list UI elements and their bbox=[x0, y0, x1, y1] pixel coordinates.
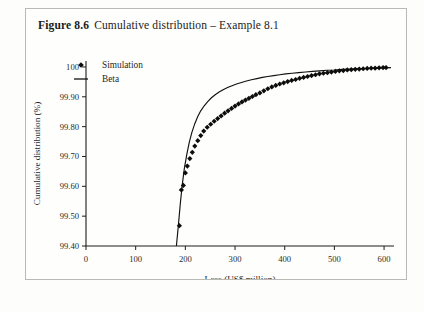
simulation-data-point bbox=[383, 65, 388, 70]
simulation-data-point bbox=[179, 187, 184, 192]
simulation-data-point bbox=[281, 80, 286, 85]
x-tick-label: 100 bbox=[129, 254, 142, 264]
x-tick-label: 600 bbox=[378, 254, 391, 264]
x-tick-label: 0 bbox=[84, 254, 88, 264]
simulation-data-point bbox=[285, 79, 290, 84]
simulation-data-point bbox=[309, 73, 314, 78]
simulation-data-point bbox=[195, 138, 200, 143]
simulation-data-point bbox=[177, 223, 182, 228]
y-tick-label: 100 bbox=[66, 62, 79, 72]
x-tick-label: 200 bbox=[179, 254, 192, 264]
x-tick-label: 500 bbox=[328, 254, 341, 264]
x-tick-label: 400 bbox=[278, 254, 291, 264]
simulation-data-point bbox=[201, 129, 206, 134]
y-tick-label: 99.90 bbox=[60, 92, 79, 102]
legend-label: Beta bbox=[102, 74, 119, 84]
legend-label: Simulation bbox=[102, 60, 143, 70]
y-tick-label: 99.60 bbox=[60, 181, 79, 191]
simulation-data-point bbox=[297, 76, 302, 81]
x-axis-title: Loss (US$ million) bbox=[205, 274, 276, 279]
simulation-data-point bbox=[208, 122, 213, 127]
simulation-marker-series bbox=[177, 65, 389, 228]
x-axis-ticks: 0100200300400500600 bbox=[84, 246, 391, 264]
y-tick-label: 99.80 bbox=[60, 122, 79, 132]
simulation-data-point bbox=[321, 71, 326, 76]
y-tick-label: 99.40 bbox=[60, 241, 79, 251]
simulation-data-point bbox=[317, 71, 322, 76]
y-tick-label: 99.50 bbox=[60, 211, 79, 221]
simulation-data-point bbox=[293, 77, 298, 82]
x-tick-label: 300 bbox=[229, 254, 242, 264]
simulation-data-point bbox=[301, 75, 306, 80]
simulation-data-point bbox=[198, 133, 203, 138]
simulation-data-point bbox=[190, 150, 195, 155]
y-axis-ticks: 99.4099.5099.6099.7099.8099.90100 bbox=[60, 62, 86, 251]
beta-curve-series bbox=[176, 68, 391, 246]
figure-title: Figure 8.6Cumulative distribution – Exam… bbox=[38, 19, 279, 31]
y-axis-title: Cumulative distribution (%) bbox=[32, 102, 42, 206]
chart-plot-area: 99.4099.5099.6099.7099.8099.90100 010020… bbox=[26, 39, 408, 279]
chart-axes bbox=[86, 61, 394, 246]
simulation-data-point bbox=[187, 156, 192, 161]
simulation-data-point bbox=[192, 143, 197, 148]
y-tick-label: 99.70 bbox=[60, 151, 79, 161]
chart-legend: SimulationBeta bbox=[74, 60, 143, 84]
simulation-data-point bbox=[305, 74, 310, 79]
figure-number: Figure 8.6 bbox=[38, 19, 89, 31]
cumulative-distribution-chart: 99.4099.5099.6099.7099.8099.90100 010020… bbox=[26, 39, 408, 279]
simulation-data-point bbox=[313, 72, 318, 77]
simulation-data-point bbox=[205, 125, 210, 130]
beta-curve bbox=[176, 68, 391, 246]
simulation-data-point bbox=[289, 78, 294, 83]
figure-caption: Cumulative distribution – Example 8.1 bbox=[94, 19, 279, 31]
figure-page: Figure 8.6Cumulative distribution – Exam… bbox=[0, 0, 424, 312]
figure-frame: Figure 8.6Cumulative distribution – Exam… bbox=[25, 8, 407, 280]
